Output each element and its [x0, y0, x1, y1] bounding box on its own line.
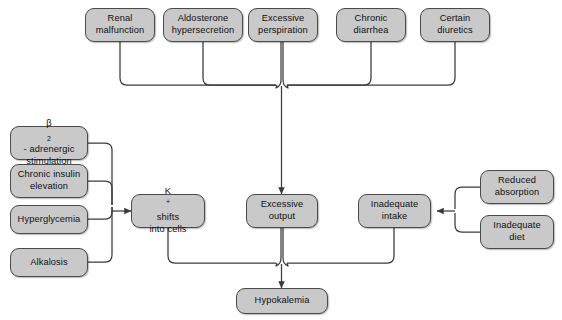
node-label-line2: diarrhea — [351, 25, 392, 37]
node-hypokalemia[interactable]: Hypokalemia — [236, 288, 328, 314]
node-label: Alkalosis — [27, 257, 71, 269]
node-label: Renal malfunction — [90, 13, 151, 37]
node-label: Hypokalemia — [252, 295, 313, 307]
node-label-line1: Renal — [93, 13, 148, 25]
node-label: Inadequate diet — [487, 220, 547, 244]
node-label-line2: into cells — [146, 224, 189, 236]
node-renal-malfunction[interactable]: Renal malfunction — [85, 8, 155, 42]
node-inadequate-intake[interactable]: Inadequate intake — [358, 194, 431, 228]
node-label-line2: diuretics — [434, 25, 476, 37]
beta-glyph: β — [21, 118, 78, 130]
node-label-line1: Excessive — [255, 13, 311, 25]
node-label-line1: K+ shifts — [146, 186, 189, 224]
node-label-line2: malfunction — [93, 25, 148, 37]
node-label: Chronic insulin elevation — [12, 169, 86, 193]
node-label: Excessive perspiration — [252, 13, 314, 37]
node-label-line2: output — [258, 211, 307, 223]
node-label: K+ shifts into cells — [143, 186, 192, 236]
node-certain-diuretics[interactable]: Certain diuretics — [420, 8, 490, 42]
node-chronic-insulin-elevation[interactable]: Chronic insulin elevation — [10, 164, 88, 198]
node-label-line1: Aldosterone — [169, 13, 237, 25]
node-label-line2: elevation — [15, 181, 83, 193]
node-beta2-adrenergic-stimulation[interactable]: β2- adrenergic stimulation — [10, 126, 88, 160]
node-label: Reduced absorption — [489, 175, 545, 199]
node-label: β2- adrenergic stimulation — [15, 118, 84, 167]
node-reduced-absorption[interactable]: Reduced absorption — [480, 170, 554, 204]
node-k-shifts-into-cells[interactable]: K+ shifts into cells — [131, 194, 205, 228]
node-excessive-output[interactable]: Excessive output — [246, 194, 318, 228]
node-label-line2: intake — [368, 211, 422, 223]
node-hyperglycemia[interactable]: Hyperglycemia — [10, 205, 88, 234]
potassium-suffix: shifts — [149, 212, 186, 224]
beta-suffix: - adrenergic — [21, 144, 78, 156]
node-label: Excessive output — [255, 199, 310, 223]
node-label-line1: Chronic — [351, 13, 392, 25]
node-label-line1: Inadequate — [368, 199, 422, 211]
node-label-line1: Certain — [434, 13, 476, 25]
node-label: Aldosterone hypersecretion — [166, 13, 240, 37]
node-label-line2: diet — [490, 232, 544, 244]
node-label-line2: hypersecretion — [169, 25, 237, 37]
beta-subscript: 2 — [47, 135, 51, 142]
node-inadequate-diet[interactable]: Inadequate diet — [480, 215, 554, 249]
node-alkalosis[interactable]: Alkalosis — [10, 248, 88, 277]
potassium-superscript: + — [166, 198, 170, 205]
node-label-line1: Excessive — [258, 199, 307, 211]
node-chronic-diarrhea[interactable]: Chronic diarrhea — [336, 8, 406, 42]
node-label-line1: β2- adrenergic — [18, 118, 81, 156]
node-aldosterone-hypersecretion[interactable]: Aldosterone hypersecretion — [163, 8, 243, 42]
potassium-glyph: K — [149, 186, 186, 198]
node-label: Chronic diarrhea — [348, 13, 395, 37]
node-label: Hyperglycemia — [15, 214, 84, 226]
node-label: Inadequate intake — [365, 199, 425, 223]
node-excessive-perspiration[interactable]: Excessive perspiration — [248, 8, 318, 42]
flowchart-canvas: Renal malfunction Aldosterone hypersecre… — [0, 0, 562, 320]
node-label-line1: Reduced — [492, 175, 542, 187]
node-label-line2: perspiration — [255, 25, 311, 37]
node-label-line2: absorption — [492, 187, 542, 199]
node-label-line1: Chronic insulin — [15, 169, 83, 181]
node-label-line1: Inadequate — [490, 220, 544, 232]
node-label: Certain diuretics — [431, 13, 479, 37]
